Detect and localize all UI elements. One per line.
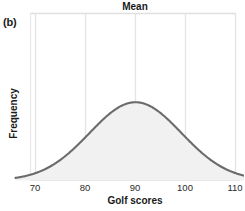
x-tick-label-90: 90 (120, 182, 150, 193)
distribution-fill-area (16, 102, 245, 180)
x-tick-label-80: 80 (70, 182, 100, 193)
plot-area (0, 0, 244, 211)
x-tick-label-70: 70 (20, 182, 50, 193)
x-tick-label-110: 110 (220, 182, 244, 193)
x-tick-label-100: 100 (170, 182, 200, 193)
figure-panel-b: (b) Mean Frequency Golf scores 70 80 90 … (0, 0, 244, 211)
